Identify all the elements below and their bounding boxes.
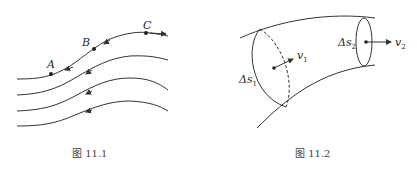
figure-canvas: A B C Δs1 Δs2 v1 v2 图 11.1 图 11.2	[0, 0, 417, 171]
point-b	[92, 47, 96, 51]
arrow-icon	[150, 33, 166, 34]
figure-11-2	[240, 16, 391, 128]
caption-figure-11-2: 图 11.2	[295, 148, 330, 159]
cross-section-1-front	[252, 29, 286, 107]
label-ds1: Δs1	[238, 73, 257, 88]
caption-figure-11-1: 图 11.1	[72, 148, 107, 159]
point-2	[364, 40, 368, 44]
point-1	[272, 66, 276, 70]
streamline-2	[17, 56, 168, 95]
flow-arrows	[65, 33, 166, 112]
label-ds2: Δs2	[337, 36, 356, 51]
figure-11-1	[17, 32, 168, 126]
label-b: B	[81, 36, 90, 49]
streamline-1	[17, 32, 168, 79]
label-c: C	[143, 19, 152, 32]
tube-bottom-edge	[257, 65, 375, 128]
label-v2: v2	[395, 36, 406, 51]
label-v1: v1	[297, 49, 308, 64]
arrow-icon	[86, 91, 92, 94]
point-a	[49, 72, 53, 76]
velocity-arrow-1	[274, 59, 293, 68]
streamline-4	[17, 101, 168, 126]
tube-top-edge	[240, 16, 375, 38]
label-a: A	[46, 58, 55, 71]
streamline-3	[17, 78, 168, 111]
